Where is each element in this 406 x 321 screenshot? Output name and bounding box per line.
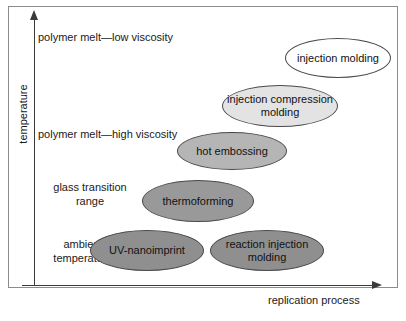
process-node[interactable]: hot embossing	[177, 132, 287, 170]
process-node[interactable]: injection molding	[285, 38, 391, 78]
y-band-label: polymer melt—high viscosity	[38, 127, 203, 141]
y-band-label: polymer melt—low viscosity	[38, 30, 198, 44]
process-node[interactable]: reaction injection molding	[210, 230, 324, 271]
process-node[interactable]: injection compression molding	[222, 85, 338, 127]
diagram-canvas: temperature replication process polymer …	[0, 0, 406, 321]
y-axis-title: temperature	[17, 69, 29, 159]
process-node[interactable]: UV-nanoimprint	[90, 230, 204, 271]
x-axis-line	[22, 285, 375, 286]
y-band-label: glass transition range	[38, 180, 142, 208]
x-axis-arrowhead	[372, 281, 382, 289]
y-axis-arrowhead	[30, 10, 38, 20]
x-axis-title: replication process	[268, 294, 360, 306]
process-node[interactable]: thermoforming	[142, 180, 254, 222]
